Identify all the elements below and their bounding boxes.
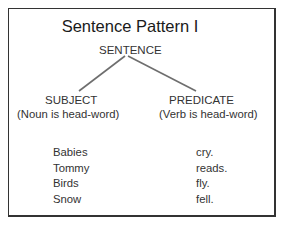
branch-line-subject (79, 56, 125, 91)
subject-example: Snow (53, 192, 89, 208)
subject-note: (Noun is head-word) (17, 108, 119, 120)
subject-example: Birds (53, 176, 89, 192)
node-subject: SUBJECT (45, 94, 97, 106)
branch-line-predicate (128, 56, 196, 91)
predicate-example: cry. (196, 145, 227, 161)
predicate-note: (Verb is head-word) (159, 108, 258, 120)
subject-example: Tommy (53, 161, 89, 177)
predicate-examples: cry. reads. fly. fell. (196, 145, 227, 207)
node-predicate: PREDICATE (169, 94, 234, 106)
subject-example: Babies (53, 145, 89, 161)
predicate-example: fell. (196, 192, 227, 208)
predicate-example: fly. (196, 176, 227, 192)
predicate-example: reads. (196, 161, 227, 177)
subject-examples: Babies Tommy Birds Snow (53, 145, 89, 207)
